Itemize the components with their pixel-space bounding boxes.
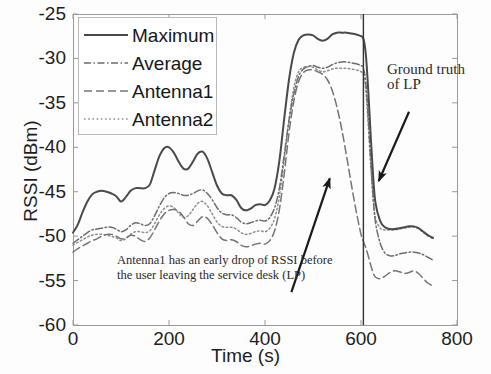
annotation-antenna1-note: Antenna1 has an early drop of RSSI befor… bbox=[117, 253, 333, 283]
legend-label-average: Average bbox=[132, 54, 202, 73]
legend-item-maximum: Maximum bbox=[79, 21, 216, 49]
rssi-line-chart-figure: RSSI (dBm) Time (s) Maximum Average Ante… bbox=[0, 0, 491, 374]
x-tick-label: 200 bbox=[139, 328, 199, 350]
legend-item-average: Average bbox=[79, 49, 216, 77]
legend-key-antenna1 bbox=[83, 84, 129, 98]
legend-label-maximum: Maximum bbox=[132, 26, 214, 45]
legend-key-average bbox=[83, 56, 129, 70]
x-tick-label: 600 bbox=[331, 328, 391, 350]
y-tick-label: -25 bbox=[8, 3, 66, 25]
y-tick-label: -50 bbox=[8, 225, 66, 247]
x-tick-label: 400 bbox=[235, 328, 295, 350]
y-tick-label: -30 bbox=[8, 47, 66, 69]
legend-item-antenna1: Antenna1 bbox=[79, 77, 216, 105]
legend-label-antenna2: Antenna2 bbox=[132, 110, 213, 129]
legend-item-antenna2: Antenna2 bbox=[79, 105, 216, 133]
y-tick-label: -45 bbox=[8, 181, 66, 203]
legend-key-maximum bbox=[83, 28, 129, 42]
x-tick-label: 0 bbox=[43, 328, 103, 350]
x-tick-label: 800 bbox=[427, 328, 487, 350]
legend-label-antenna1: Antenna1 bbox=[132, 82, 213, 101]
annotation-ground-truth: Ground truth of LP bbox=[387, 62, 465, 92]
annotation-antenna1-line1: Antenna1 has an early drop of RSSI befor… bbox=[117, 253, 333, 267]
y-tick-label: -35 bbox=[8, 92, 66, 114]
chart-legend: Maximum Average Antenna1 Antenna2 bbox=[78, 17, 217, 135]
plot-canvas bbox=[0, 0, 491, 374]
y-tick-label: -55 bbox=[8, 270, 66, 292]
annotation-ground-truth-line1: Ground truth bbox=[387, 61, 465, 77]
annotation-antenna1-line2: the user leaving the service desk (LP) bbox=[117, 268, 305, 282]
y-tick-label: -40 bbox=[8, 136, 66, 158]
legend-key-antenna2 bbox=[83, 112, 129, 126]
annotation-ground-truth-line2: of LP bbox=[387, 76, 421, 92]
y-axis-label: RSSI (dBm) bbox=[20, 96, 42, 246]
annotation-arrow-ground-truth-note bbox=[379, 112, 409, 181]
